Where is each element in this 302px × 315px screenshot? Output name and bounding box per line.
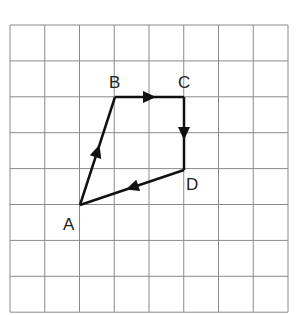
arrowheads (90, 91, 190, 191)
label-c: C (178, 73, 190, 92)
vector-diagram: B C D A (0, 0, 302, 315)
arrowhead-icon (126, 180, 140, 191)
label-d: D (186, 175, 198, 194)
arrowhead-icon (90, 145, 101, 159)
label-b: B (109, 73, 120, 92)
grid (10, 25, 288, 312)
label-a: A (63, 215, 75, 234)
arrowhead-icon (178, 127, 190, 140)
